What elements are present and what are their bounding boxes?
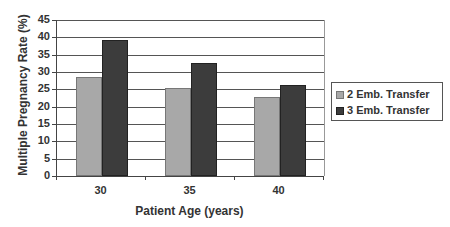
gridline [57,55,324,56]
bar-35-3emb [191,63,217,176]
y-tick-label: 15 [30,117,50,129]
x-tick-mark [56,176,57,180]
x-axis [56,176,323,177]
bar-40-2emb [254,97,280,176]
x-axis-label: Patient Age (years) [56,204,323,218]
gridline [57,37,324,38]
y-tick-label: 25 [30,82,50,94]
legend-swatch-light [336,91,344,99]
y-tick-label: 0 [30,169,50,181]
y-tick-label: 30 [30,65,50,77]
bar-30-3emb [102,40,128,176]
legend-swatch-dark [336,107,344,115]
legend-item-3-emb: 3 Emb. Transfer [336,104,430,118]
bar-40-3emb [280,85,306,176]
legend-label: 3 Emb. Transfer [347,104,430,116]
y-tick-label: 10 [30,134,50,146]
plot-area [56,20,325,176]
y-axis-label: Multiple Pregnancy Rate (%) [16,10,30,180]
bar-30-2emb [76,77,102,176]
legend-item-2-emb: 2 Emb. Transfer [336,88,430,102]
legend: 2 Emb. Transfer 3 Emb. Transfer [331,82,443,121]
x-tick-label: 35 [170,184,210,196]
y-tick-label: 40 [30,30,50,42]
x-tick-mark [323,176,324,180]
y-tick-label: 35 [30,48,50,60]
y-tick-label: 5 [30,152,50,164]
bar-35-2emb [165,88,191,176]
x-tick-label: 30 [81,184,121,196]
x-tick-label: 40 [259,184,299,196]
gridline [57,20,324,21]
x-tick-mark [234,176,235,180]
y-tick-label: 45 [30,13,50,25]
x-tick-mark [145,176,146,180]
legend-label: 2 Emb. Transfer [347,88,430,100]
y-tick-label: 20 [30,100,50,112]
